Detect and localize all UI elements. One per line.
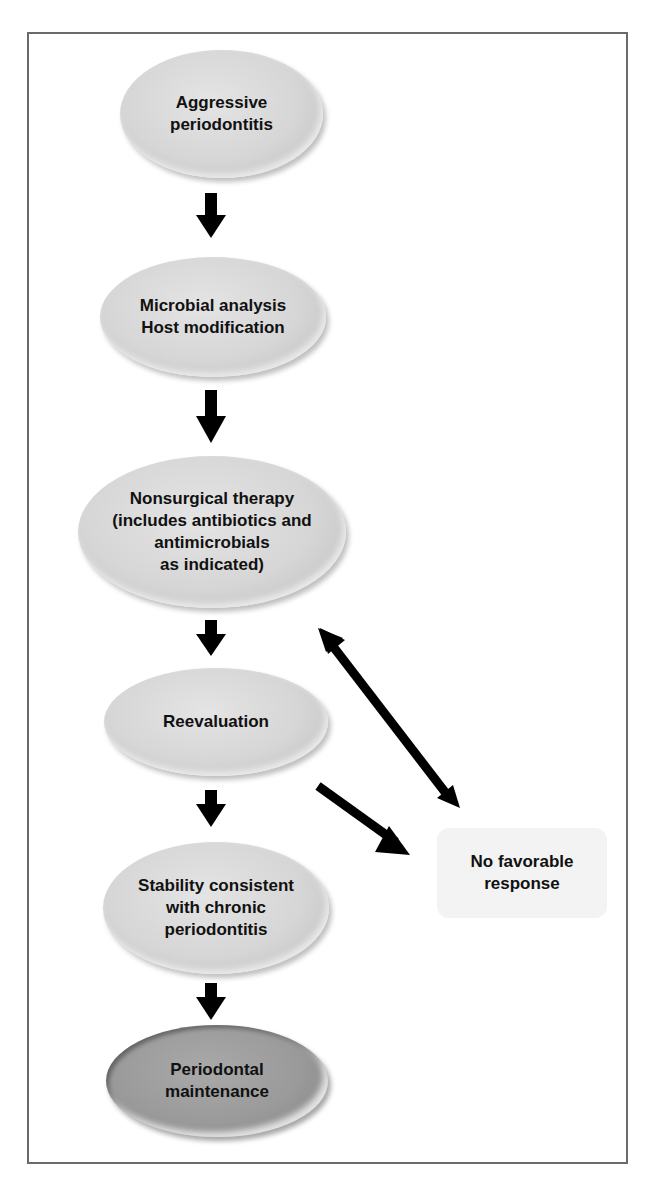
node-label: Reevaluation [163,711,269,733]
arrow-down-icon [196,620,226,656]
arrow-down-icon [196,390,226,443]
node-label: Aggressive periodontitis [170,92,273,136]
connector-arrows [0,0,651,1180]
arrow-diagonal-icon [318,786,410,855]
node-label: Stability consistent with chronic period… [138,875,294,941]
node-no-favorable-response: No favorable response [437,828,607,918]
node-nonsurgical-therapy: Nonsurgical therapy (includes antibiotic… [78,456,346,608]
node-stability: Stability consistent with chronic period… [103,842,329,974]
arrow-down-icon [196,790,226,827]
arrow-down-icon [196,983,226,1020]
node-label: Microbial analysis Host modification [140,295,286,339]
double-arrow-icon [318,628,460,808]
node-microbial-analysis: Microbial analysis Host modification [100,257,326,377]
node-aggressive-periodontitis: Aggressive periodontitis [120,50,323,178]
node-label: Nonsurgical therapy (includes antibiotic… [112,488,311,576]
node-label: Periodontal maintenance [165,1059,269,1103]
node-label: No favorable response [471,851,574,895]
node-reevaluation: Reevaluation [104,668,328,776]
arrow-down-icon [196,193,226,238]
node-periodontal-maintenance: Periodontal maintenance [106,1025,328,1137]
